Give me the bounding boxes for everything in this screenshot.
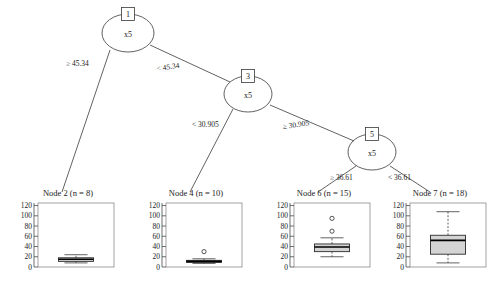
leaf-ytick-label-6-2: 40 [281, 242, 289, 251]
leaf-ytick-label-2-5: 100 [21, 211, 33, 220]
leaf-ytick-label-7-4: 80 [397, 222, 405, 231]
node-id-label-1: 1 [126, 10, 130, 19]
leaf-ytick-label-4-0: 0 [156, 263, 160, 272]
leaf-ytick-label-2-6: 120 [21, 201, 33, 210]
edge-label-3-4: < 30.905 [192, 120, 219, 129]
tree-edge-1-2 [62, 50, 110, 192]
edge-label-5-6: ≥ 36.61 [330, 173, 353, 182]
leaf-ytick-label-7-5: 100 [393, 211, 405, 220]
leaf-plot-frame-6 [294, 203, 370, 267]
leaf-ytick-label-4-4: 80 [153, 222, 161, 231]
tree-canvas: ≥ 45.34< 45.34< 30.905≥ 30.905≥ 36.61< 3… [0, 0, 493, 285]
leaf-ytick-label-4-2: 40 [153, 242, 161, 251]
leaf-ytick-label-6-4: 80 [281, 222, 289, 231]
leaf-ytick-label-6-1: 20 [281, 252, 289, 261]
leaf-ytick-label-6-6: 120 [277, 201, 289, 210]
leaf-title-6: Node 6 (n = 15) [297, 188, 352, 198]
leaf-ytick-label-2-3: 60 [25, 232, 33, 241]
node-id-label-5: 5 [370, 130, 374, 139]
edge-label-1-3: < 45.34 [156, 61, 180, 73]
boxplot-box-7 [431, 235, 466, 254]
edge-label-3-5: ≥ 30.905 [282, 118, 310, 131]
leaf-ytick-label-7-1: 20 [397, 252, 405, 261]
leaf-ytick-label-2-2: 40 [25, 242, 33, 251]
leaf-ytick-label-6-0: 0 [284, 263, 288, 272]
leaf-ytick-label-4-6: 120 [149, 201, 161, 210]
leaf-ytick-label-6-3: 60 [281, 232, 289, 241]
leaf-ytick-label-4-5: 100 [149, 211, 161, 220]
leaf-ytick-label-4-1: 20 [153, 252, 161, 261]
leaf-title-7: Node 7 (n = 18) [413, 188, 468, 198]
leaf-ytick-label-7-2: 40 [397, 242, 405, 251]
node-variable-label-1: x5 [124, 30, 132, 39]
leaf-ytick-label-2-1: 20 [25, 252, 33, 261]
node-variable-label-5: x5 [368, 149, 376, 158]
leaf-ytick-label-4-3: 60 [153, 232, 161, 241]
leaf-ytick-label-2-4: 80 [25, 222, 33, 231]
leaf-ytick-label-7-6: 120 [393, 201, 405, 210]
leaf-ytick-label-7-0: 0 [400, 263, 404, 272]
node-id-label-3: 3 [246, 72, 250, 81]
leaf-plot-frame-4 [166, 203, 242, 267]
leaf-title-2: Node 2 (n = 8) [43, 188, 93, 198]
edge-label-1-2: ≥ 45.34 [66, 59, 89, 68]
node-variable-label-3: x5 [244, 91, 252, 100]
leaf-title-4: Node 4 (n = 10) [169, 188, 224, 198]
leaf-ytick-label-2-0: 0 [28, 263, 32, 272]
leaf-ytick-label-7-3: 60 [397, 232, 405, 241]
decision-tree-figure: ≥ 45.34< 45.34< 30.905≥ 30.905≥ 36.61< 3… [0, 0, 493, 285]
edge-label-5-7: < 36.61 [388, 173, 411, 182]
leaf-ytick-label-6-5: 100 [277, 211, 289, 220]
